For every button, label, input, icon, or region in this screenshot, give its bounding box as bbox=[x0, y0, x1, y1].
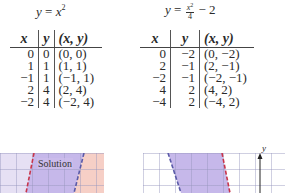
cell-x: −4 bbox=[140, 96, 171, 108]
cell-y: 2 bbox=[171, 84, 200, 96]
header-x: x bbox=[10, 30, 39, 48]
table-row: −2 4 (−2, 4) bbox=[10, 96, 102, 108]
cell-x: 0 bbox=[10, 48, 39, 61]
left-graph: Solution bbox=[0, 153, 104, 193]
header-point: (x, y) bbox=[200, 30, 254, 48]
cell-point: (−4, 2) bbox=[200, 96, 254, 108]
header-point: (x, y) bbox=[54, 30, 102, 48]
cell-x: −2 bbox=[10, 96, 39, 108]
solution-label: Solution bbox=[37, 158, 73, 169]
title-tail: − 2 bbox=[195, 2, 215, 17]
title-exponent: 2 bbox=[61, 3, 65, 12]
table-row: −4 2 (−4, 2) bbox=[140, 96, 254, 108]
table-row: −1 1 (−1, 1) bbox=[10, 72, 102, 84]
fraction: x24 bbox=[186, 1, 195, 21]
left-equation-title: y = x2 bbox=[36, 3, 65, 20]
fraction-denominator: 4 bbox=[186, 13, 195, 21]
equals-sign: = bbox=[42, 4, 56, 19]
boundary-lines bbox=[143, 153, 285, 193]
right-equation-title: y = x24 − 2 bbox=[165, 1, 216, 21]
cell-y: −1 bbox=[171, 72, 200, 84]
cell-y: 4 bbox=[39, 96, 55, 108]
cell-point: (−2, 4) bbox=[54, 96, 102, 108]
cell-x: −1 bbox=[10, 72, 39, 84]
y-axis-label: y bbox=[262, 143, 266, 153]
header-x: x bbox=[140, 30, 171, 48]
left-values-table: x y (x, y) 0 0 (0, 0) 1 1 (1, 1) −1 1 (−… bbox=[10, 30, 102, 108]
cell-y: 2 bbox=[171, 96, 200, 108]
right-graph bbox=[143, 153, 285, 193]
equals-sign: = bbox=[171, 2, 185, 17]
table-row: −2 −1 (−2, −1) bbox=[140, 72, 254, 84]
table-row: 0 0 (0, 0) bbox=[10, 48, 102, 61]
right-values-table: x y (x, y) 0 −2 (0, −2) 2 −1 (2, −1) −2 … bbox=[140, 30, 254, 108]
fraction-numerator-exp: 2 bbox=[190, 2, 193, 8]
header-y: y bbox=[39, 30, 55, 48]
header-y: y bbox=[171, 30, 200, 48]
